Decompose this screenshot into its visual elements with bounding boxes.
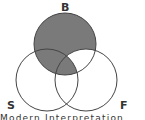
label-b: B	[61, 1, 69, 14]
caption: Modern Interpretation	[0, 113, 124, 120]
label-f: F	[120, 99, 128, 112]
label-s: S	[7, 99, 15, 112]
